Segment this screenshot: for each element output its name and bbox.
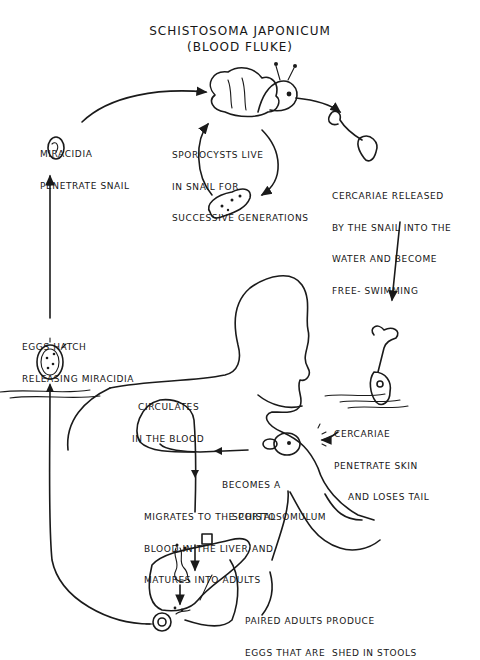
diagram-subtitle: (BLOOD FLUKE) (0, 40, 480, 54)
label-eggs-hatch: EGGS HATCH RELEASING MIRACIDIA (22, 321, 134, 405)
label-sporocysts: SPOROCYSTS LIVE IN SNAIL FOR SUCCESSIVE … (172, 129, 309, 245)
penetration-marks (318, 424, 326, 446)
label-circulates: CIRCULATES IN THE BLOOD (132, 381, 204, 465)
label-miracidia: MIRACIDIA PENETRATE SNAIL (40, 128, 130, 212)
label-migrates: MIGRATES TO THE PORTAL BLOOD IN THE LIVE… (144, 491, 276, 607)
label-cercariae-released: CERCARIAE RELEASED BY THE SNAIL INTO THE… (332, 170, 451, 317)
label-cercariae-penetrate: CERCARIAE PENETRATE SKIN AND LOSES TAIL (334, 408, 429, 524)
cercaria-penetrating-illustration (370, 326, 397, 404)
label-paired-adults: PAIRED ADULTS PRODUCE EGGS THAT ARE SHED… (245, 595, 417, 660)
arrow-snail-to-cercaria (296, 98, 340, 112)
schistosomulum-illustration (263, 433, 300, 455)
arrow-miracidia-to-snail (82, 91, 206, 122)
cercaria-free-illustration (329, 111, 377, 160)
diagram-title: SCHISTOSOMA JAPONICUM (0, 24, 480, 38)
snail-illustration (210, 62, 297, 117)
